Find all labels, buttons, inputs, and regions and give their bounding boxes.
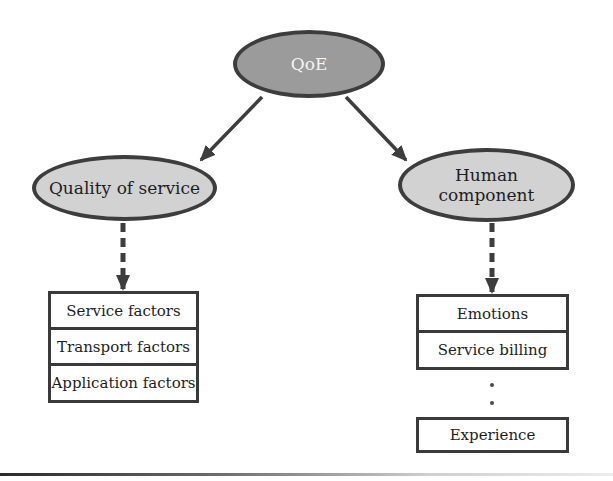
factor-application: Application factors bbox=[51, 366, 196, 400]
experience-box: Experience bbox=[416, 417, 569, 453]
human-component-label: Human component bbox=[439, 165, 535, 206]
human-component-label-line1: Human bbox=[455, 165, 518, 185]
factor-experience: Experience bbox=[419, 420, 566, 450]
human-component-label-line2: component bbox=[439, 185, 535, 205]
arrow-root-to-qos bbox=[201, 97, 262, 160]
qoe-root-node: QoE bbox=[233, 30, 385, 98]
qoe-diagram: QoE Quality of service Human component S… bbox=[0, 0, 613, 481]
quality-of-service-label: Quality of service bbox=[49, 178, 200, 198]
ellipsis-dot-2 bbox=[490, 401, 494, 405]
ellipsis-dot-1 bbox=[490, 383, 494, 387]
qos-factors-stack: Service factors Transport factors Applic… bbox=[48, 291, 199, 403]
factor-emotions: Emotions bbox=[419, 297, 566, 333]
qoe-root-label: QoE bbox=[291, 54, 328, 74]
quality-of-service-node: Quality of service bbox=[32, 155, 217, 221]
human-component-node: Human component bbox=[398, 148, 575, 222]
bottom-rule-divider bbox=[0, 473, 613, 476]
factor-service: Service factors bbox=[51, 294, 196, 330]
factor-service-billing: Service billing bbox=[419, 333, 566, 367]
factor-transport: Transport factors bbox=[51, 330, 196, 366]
arrow-root-to-human bbox=[346, 97, 406, 160]
human-factors-stack: Emotions Service billing bbox=[416, 294, 569, 370]
